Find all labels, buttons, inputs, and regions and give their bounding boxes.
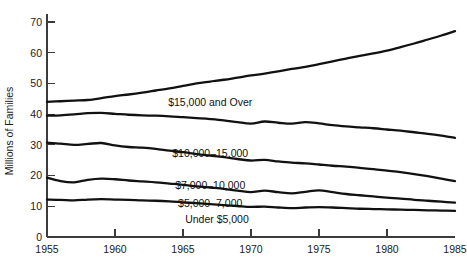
y-axis-title-group: Millions of Families bbox=[3, 87, 15, 176]
x-tick-label: 1955 bbox=[35, 243, 59, 255]
series-label: $15,000 and Over bbox=[168, 96, 253, 108]
series-label: Under $5,000 bbox=[185, 213, 249, 225]
series-label: $7,000–10,000 bbox=[175, 179, 245, 191]
y-axis-title: Millions of Families bbox=[3, 87, 15, 176]
series-line bbox=[47, 113, 455, 138]
y-tick-label: 40 bbox=[30, 108, 42, 120]
series-line bbox=[47, 31, 455, 102]
x-tick-label: 1980 bbox=[375, 243, 399, 255]
line-chart: Millions of Families 010203040506070 195… bbox=[0, 0, 467, 266]
y-tick-label: 50 bbox=[30, 77, 42, 89]
y-axis-ticks: 010203040506070 bbox=[30, 16, 55, 243]
x-tick-label: 1965 bbox=[171, 243, 195, 255]
series-line bbox=[47, 199, 455, 211]
chart-container: Millions of Families 010203040506070 195… bbox=[0, 0, 467, 266]
series-label: $5,000–7,000 bbox=[178, 197, 242, 209]
series-label: $10,000–15,000 bbox=[172, 147, 248, 159]
x-tick-label: 1970 bbox=[239, 243, 263, 255]
y-tick-label: 0 bbox=[36, 231, 42, 243]
series-line bbox=[47, 143, 455, 181]
y-tick-label: 10 bbox=[30, 200, 42, 212]
y-tick-label: 70 bbox=[30, 16, 42, 28]
y-tick-label: 20 bbox=[30, 169, 42, 181]
series-annotations: $15,000 and Over$10,000–15,000$7,000–10,… bbox=[168, 96, 253, 225]
y-tick-label: 30 bbox=[30, 139, 42, 151]
y-tick-label: 60 bbox=[30, 47, 42, 59]
x-tick-label: 1985 bbox=[443, 243, 467, 255]
x-axis-ticks: 1955196019651970197519801985 bbox=[35, 229, 467, 255]
x-tick-label: 1960 bbox=[103, 243, 127, 255]
series-lines bbox=[47, 31, 455, 211]
x-tick-label: 1975 bbox=[307, 243, 331, 255]
